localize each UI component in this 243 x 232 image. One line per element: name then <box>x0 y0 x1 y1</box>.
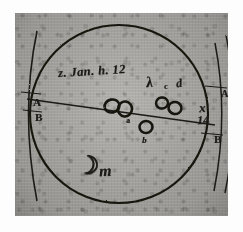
right-edge-arc-outer <box>225 35 228 193</box>
lambda-label: λ <box>145 75 153 91</box>
crescent-moon-symbol: ☽ <box>75 152 100 180</box>
arc-label-b-left: B <box>35 112 42 123</box>
moon-cluster-right-2 <box>168 101 183 115</box>
scanned-page: z. Jan. h. 12 λ c d a b x 14 A B A B 6 ☽… <box>0 0 243 232</box>
arc-label-b-right: B <box>214 134 221 145</box>
label-14: 14 <box>197 114 210 127</box>
label-c: c <box>164 83 168 91</box>
arc-label-a-left: A <box>33 97 41 108</box>
moon-cluster-right-1 <box>155 97 168 110</box>
label-a: a <box>126 117 130 125</box>
right-edge-arc-inner <box>214 43 222 191</box>
left-tick-a <box>21 92 41 94</box>
moon-on-chord <box>139 121 153 134</box>
label-b: b <box>142 136 147 145</box>
moon-suffix-label: m <box>99 163 112 179</box>
photographic-plate: z. Jan. h. 12 λ c d a b x 14 A B A B 6 ☽… <box>15 13 228 216</box>
arc-label-a-right: A <box>221 89 228 99</box>
